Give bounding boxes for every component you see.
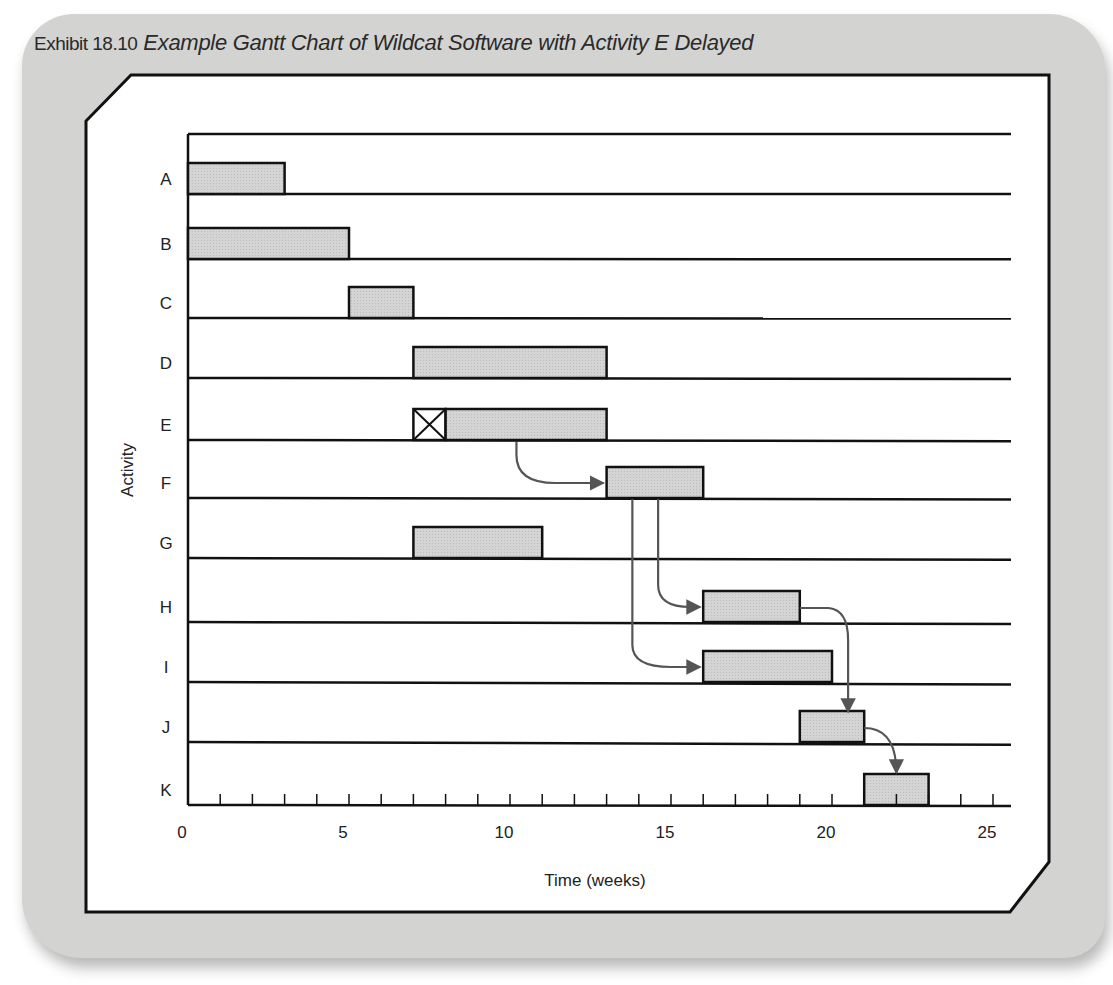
activity-label: H xyxy=(160,598,172,617)
x-axis-label: Time (weeks) xyxy=(544,871,645,890)
activity-label: B xyxy=(160,235,171,254)
x-tick-label: 5 xyxy=(338,823,347,842)
activity-label: C xyxy=(160,294,172,313)
activity-bar-E xyxy=(446,409,607,440)
activity-label: I xyxy=(164,658,169,677)
x-tick-label: 10 xyxy=(495,823,514,842)
activity-label: J xyxy=(162,718,171,737)
gantt-chart: 0510152025 ABCDEFGHIJK Activity Time (we… xyxy=(0,0,1113,985)
activity-bar-B xyxy=(188,228,349,259)
activity-bar-F xyxy=(607,467,704,498)
activity-bar-G xyxy=(413,527,542,558)
x-axis-line xyxy=(188,805,1011,806)
activity-bar-J xyxy=(800,711,864,742)
activity-label: A xyxy=(160,170,172,189)
activity-bar-C xyxy=(349,287,413,318)
activity-label: K xyxy=(160,781,172,800)
row-gridline xyxy=(188,498,1011,500)
x-tick-label: 0 xyxy=(177,823,186,842)
activity-label: E xyxy=(160,416,171,435)
activity-bar-H xyxy=(703,591,800,622)
y-axis-label: Activity xyxy=(118,443,137,497)
row-gridline xyxy=(188,318,1011,319)
activity-label: G xyxy=(159,534,172,553)
activity-label: D xyxy=(160,354,172,373)
activity-bar-D xyxy=(413,347,606,378)
activity-bar-A xyxy=(188,163,285,194)
x-tick-label: 15 xyxy=(656,823,675,842)
activity-label: F xyxy=(161,474,171,493)
x-tick-label: 25 xyxy=(978,823,997,842)
activity-bar-I xyxy=(703,651,832,682)
x-tick-label: 20 xyxy=(817,823,836,842)
